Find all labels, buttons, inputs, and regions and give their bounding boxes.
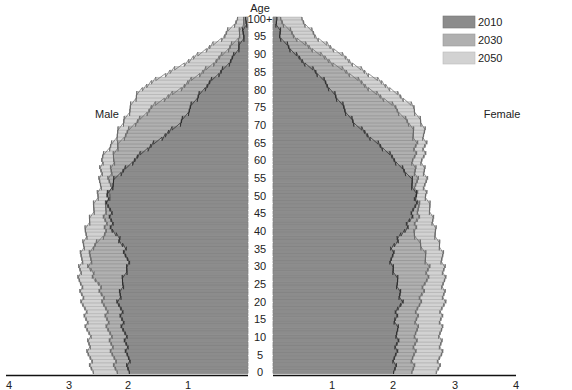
bar-male-2010-age-42	[113, 222, 248, 225]
bar-male-2010-age-36	[123, 243, 248, 246]
bar-female-2010-age-43	[273, 218, 410, 221]
bar-female-2010-age-53	[273, 183, 412, 186]
bar-female-2010-age-66	[273, 137, 370, 140]
bar-female-2010-age-26	[273, 279, 398, 282]
bar-female-2010-age-98	[273, 24, 276, 27]
bar-male-2010-age-81	[207, 84, 248, 87]
bar-male-2010-age-84	[219, 74, 248, 77]
bar-male-2010-age-77	[197, 98, 248, 101]
bar-female-2010-age-38	[273, 236, 397, 239]
bar-male-2010-age-11	[125, 332, 248, 335]
bar-male-2010-age-1	[128, 367, 248, 370]
bar-male-2010-age-33	[126, 254, 249, 257]
legend-swatch-2030	[443, 34, 475, 46]
bar-male-2010-age-32	[128, 257, 249, 260]
age-tick-10: 10	[254, 331, 266, 343]
bar-female-2010-age-14	[273, 321, 394, 324]
bar-female-2010-age-84	[273, 74, 317, 77]
bar-female-2010-age-86	[273, 66, 313, 69]
bar-female-2010-age-88	[273, 59, 302, 62]
bar-female-2010-age-89	[273, 56, 299, 59]
bar-male-2010-age-76	[191, 102, 248, 105]
bar-male-2010-age-6	[125, 349, 248, 352]
bar-male-2010-age-88	[231, 59, 248, 62]
bar-female-2010-age-3	[273, 360, 393, 363]
bar-male-2010-age-55	[114, 176, 248, 179]
bar-female-2010-age-30	[273, 264, 393, 267]
bar-female-2010-age-90	[273, 52, 297, 55]
bar-male-2010-age-53	[113, 183, 248, 186]
bar-male-2010-age-19	[119, 303, 248, 306]
bar-male-2010-age-75	[190, 105, 248, 108]
bar-female-2010-age-23	[273, 289, 401, 292]
bar-female-2010-age-77	[273, 98, 337, 101]
bar-male-2010-age-96	[243, 31, 248, 34]
bar-male-2010-age-18	[121, 307, 248, 310]
bar-male-2010-age-69	[172, 127, 248, 130]
x-tick-right-4: 4	[513, 379, 519, 390]
age-tick-70: 70	[254, 119, 266, 131]
bar-female-2010-age-37	[273, 240, 398, 243]
bar-female-2010-age-59	[273, 162, 396, 165]
bar-female-2010-age-31	[273, 261, 390, 264]
bar-male-2010-age-35	[126, 247, 248, 250]
legend-swatch-2050	[443, 52, 475, 64]
bar-male-2010-age-16	[120, 314, 248, 317]
bar-female-2010-age-46	[273, 208, 413, 211]
bar-female-2010-age-21	[273, 296, 399, 299]
bar-female-2010-age-50	[273, 194, 416, 197]
bar-male-2010-age-64	[151, 144, 248, 147]
bar-male-2010-age-70	[180, 123, 248, 126]
bar-male-2010-age-56	[121, 173, 248, 176]
bar-male-2010-age-80	[205, 88, 248, 91]
bar-female-2010-age-19	[273, 303, 401, 306]
bar-male-2010-age-83	[212, 77, 248, 80]
bar-male-2010-age-37	[119, 240, 248, 243]
bar-female-2010-age-64	[273, 144, 380, 147]
bar-female-2010-age-100	[273, 17, 277, 20]
bar-female-2010-age-45	[273, 211, 411, 214]
age-tick-100plus: 100+	[248, 13, 273, 25]
age-tick-5: 5	[257, 349, 263, 361]
bar-male-2010-age-28	[127, 272, 248, 275]
bar-female-2010-age-70	[273, 123, 354, 126]
female-bars	[273, 17, 446, 373]
bar-male-2010-age-94	[244, 38, 248, 41]
x-ticks-left: 4 3 2 1	[6, 379, 191, 390]
bar-female-2010-age-57	[273, 169, 404, 172]
bar-male-2010-age-85	[221, 70, 248, 73]
bar-male-2010-age-4	[129, 356, 248, 359]
age-tick-95: 95	[254, 30, 266, 42]
bar-male-2010-age-38	[120, 236, 248, 239]
age-tick-75: 75	[254, 101, 266, 113]
bar-female-2010-age-39	[273, 233, 401, 236]
bar-male-2010-age-46	[110, 208, 248, 211]
bar-male-2010-age-62	[140, 151, 248, 154]
bar-male-2010-age-57	[123, 169, 248, 172]
x-tick-left-3: 3	[66, 379, 72, 390]
bar-female-2010-age-83	[273, 77, 324, 80]
age-tick-0: 0	[257, 366, 263, 378]
bar-male-2010-age-21	[121, 296, 248, 299]
bar-male-2010-age-52	[113, 187, 248, 190]
bar-male-2010-age-23	[119, 289, 248, 292]
legend: 2010 2030 2050	[443, 16, 502, 64]
bar-male-2010-age-95	[244, 35, 248, 38]
bar-male-2010-age-12	[123, 328, 248, 331]
bar-male-2010-age-22	[120, 293, 248, 296]
bar-female-2010-age-62	[273, 151, 390, 154]
bar-male-2010-age-74	[189, 109, 248, 112]
bar-female-2010-age-63	[273, 148, 383, 151]
bar-female-2010-age-17	[273, 310, 395, 313]
bar-female-2010-age-75	[273, 105, 344, 108]
bar-male-2010-age-9	[124, 339, 248, 342]
bar-female-2010-age-36	[273, 243, 394, 246]
bar-male-2010-age-60	[135, 158, 248, 161]
bar-male-2010-age-3	[130, 360, 248, 363]
bar-female-2010-age-15	[273, 317, 395, 320]
bar-female-2010-age-1	[273, 367, 395, 370]
bar-female-2010-age-0	[273, 370, 394, 373]
age-tick-20: 20	[254, 296, 266, 308]
bar-male-2010-age-34	[123, 250, 248, 253]
bar-female-2010-age-51	[273, 190, 417, 193]
